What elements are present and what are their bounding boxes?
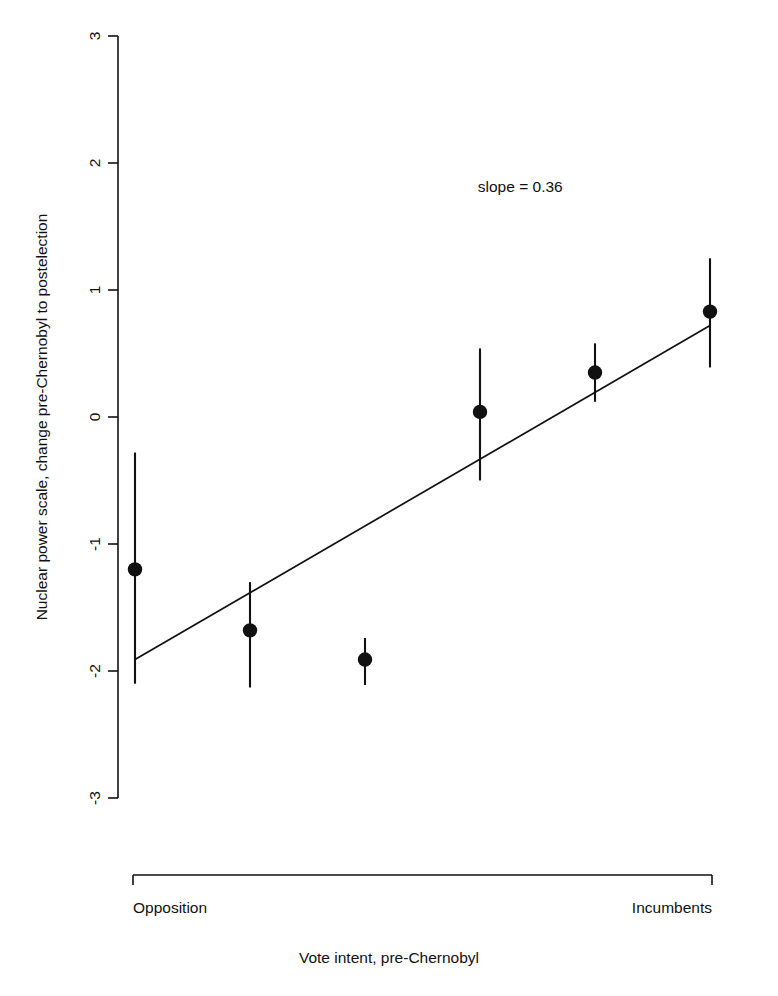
y-tick-label-3: 3 xyxy=(86,32,103,41)
slope-annotation: slope = 0.36 xyxy=(478,178,563,195)
x-tick-label-incumbents: Incumbents xyxy=(632,899,712,916)
chart-figure: 3 2 1 0 -1 -2 -3 Nuclear power scale, ch… xyxy=(0,0,778,996)
y-tick-label-minus-1: -1 xyxy=(86,537,103,551)
x-axis-title: Vote intent, pre-Chernobyl xyxy=(299,949,479,966)
chart-svg: 3 2 1 0 -1 -2 -3 Nuclear power scale, ch… xyxy=(0,0,778,996)
data-point[interactable] xyxy=(243,623,257,637)
y-axis: 3 2 1 0 -1 -2 -3 Nuclear power scale, ch… xyxy=(33,32,119,805)
data-point[interactable] xyxy=(703,304,717,318)
y-axis-title: Nuclear power scale, change pre-Chernoby… xyxy=(33,214,50,621)
regression-fit-line xyxy=(135,326,710,660)
y-tick-label-1: 1 xyxy=(86,286,103,295)
data-point[interactable] xyxy=(588,365,602,379)
plot-data-layer xyxy=(128,258,717,687)
y-tick-label-minus-2: -2 xyxy=(86,664,103,678)
data-point[interactable] xyxy=(358,652,372,666)
y-tick-label-2: 2 xyxy=(86,159,103,168)
data-point[interactable] xyxy=(128,562,142,576)
y-tick-label-minus-3: -3 xyxy=(86,791,103,805)
x-tick-label-opposition: Opposition xyxy=(133,899,207,916)
data-point[interactable] xyxy=(473,405,487,419)
y-tick-label-0: 0 xyxy=(86,412,103,421)
x-axis: Opposition Incumbents Vote intent, pre-C… xyxy=(133,875,712,966)
